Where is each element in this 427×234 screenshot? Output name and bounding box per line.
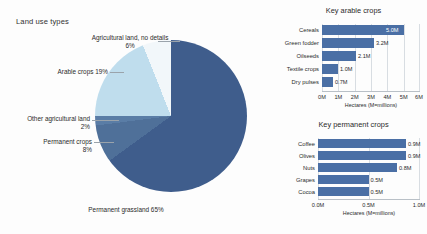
pie-chart-graphic — [95, 40, 247, 192]
pie-label-agricultural-no-details: Agricultural land, no details 6% — [72, 34, 188, 51]
land-use-pie-panel: Land use types Agricultural land, no det… — [0, 0, 280, 234]
bar[interactable] — [322, 64, 338, 74]
pie-label-pct: 2% — [81, 123, 90, 130]
permanent-value-label: 0.5M — [371, 189, 383, 195]
arable-plot-area: Cereals 5.0M Green fodder 3.2M Oilseeds … — [322, 24, 420, 92]
arable-x-axis-label: Hectares (M=millions) — [322, 102, 420, 108]
arable-value-label: 2.1M — [358, 53, 370, 59]
permanent-value-label: 0.9M — [408, 153, 420, 159]
pie-label-text: Arable crops 19% — [58, 68, 108, 75]
permanent-category-label: Olives — [299, 153, 315, 159]
bar[interactable] — [318, 175, 369, 184]
table-row: Cereals 5.0M — [322, 25, 420, 35]
arable-chart-title: Key arable crops — [280, 6, 427, 15]
permanent-x-axis-label: Hectares (M=millions) — [318, 210, 420, 216]
pie-label-arable-crops: Arable crops 19% — [22, 68, 108, 76]
permanent-x-ticks: 0.0M 0.5M 1.0M — [318, 200, 420, 209]
pie-label-text: Other agricultural land — [27, 115, 90, 122]
pie-label-permanent-grassland: Permanent grassland 65% — [66, 206, 186, 214]
x-tick: 6M — [415, 94, 423, 100]
key-permanent-crops-panel: Key permanent crops Coffee 0.9M Olives 0… — [280, 120, 427, 232]
pie-label-other-agricultural-land: Other agricultural land 2% — [8, 115, 90, 132]
pie-label-permanent-crops: Permanent crops 8% — [18, 138, 92, 155]
infographic-root: Land use types Agricultural land, no det… — [0, 0, 427, 234]
permanent-value-label: 0.9M — [408, 141, 420, 147]
bar[interactable] — [318, 151, 406, 160]
key-arable-crops-panel: Key arable crops Cereals 5.0M Green fodd… — [280, 6, 427, 114]
permanent-category-label: Coffee — [298, 141, 315, 147]
table-row: Green fodder 3.2M — [322, 38, 420, 48]
table-row: Nuts 0.8M — [318, 163, 420, 172]
bar[interactable] — [318, 139, 406, 148]
permanent-chart-title: Key permanent crops — [280, 120, 427, 129]
x-tick: 3M — [367, 94, 375, 100]
table-row: Coffee 0.9M — [318, 139, 420, 148]
table-row: Textile crops 1.0M — [322, 64, 420, 74]
x-tick: 2M — [351, 94, 359, 100]
arable-category-label: Dry pulses — [292, 79, 319, 85]
pie-chart-title: Land use types — [16, 17, 69, 26]
permanent-plot-area: Coffee 0.9M Olives 0.9M Nuts 0.8M Grapes… — [318, 138, 420, 200]
pie-label-text: Agricultural land, no details — [92, 34, 169, 41]
arable-x-ticks: 0M 1M 2M 3M 4M 5M 6M — [322, 92, 420, 101]
arable-value-label: 5.0M — [386, 27, 398, 33]
x-tick: 5M — [400, 94, 408, 100]
bar[interactable] — [322, 38, 374, 48]
x-tick: 0.5M — [362, 202, 374, 208]
x-tick: 1M — [334, 94, 342, 100]
arable-value-label: 3.2M — [376, 40, 388, 46]
pie-label-pct: 8% — [83, 146, 92, 153]
table-row: Grapes 0.5M — [318, 175, 420, 184]
arable-value-label: 1.0M — [340, 66, 352, 72]
leader-line-permanent-crops — [94, 142, 114, 143]
permanent-category-label: Cocoa — [298, 189, 315, 195]
bar[interactable] — [318, 187, 369, 196]
pie-label-text: Permanent grassland 65% — [88, 206, 163, 213]
permanent-value-label: 0.8M — [399, 165, 411, 171]
bar[interactable] — [322, 77, 333, 87]
arable-category-label: Textile crops — [287, 66, 319, 72]
table-row: Olives 0.9M — [318, 151, 420, 160]
table-row: Cocoa 0.5M — [318, 187, 420, 196]
x-tick: 1.0M — [413, 202, 425, 208]
x-tick: 0M — [318, 94, 326, 100]
x-tick: 0.0M — [312, 202, 324, 208]
arable-category-label: Green fodder — [285, 40, 319, 46]
pie-label-text: Permanent crops — [43, 138, 92, 145]
leader-line-other-ag — [92, 120, 119, 121]
pie-slices — [95, 40, 247, 192]
permanent-category-label: Grapes — [296, 177, 315, 183]
permanent-value-label: 0.5M — [371, 177, 383, 183]
table-row: Dry pulses 0.7M — [322, 77, 420, 87]
arable-category-label: Cereals — [299, 27, 319, 33]
leader-line-arable — [110, 72, 124, 73]
bar[interactable] — [318, 163, 397, 172]
bar[interactable] — [322, 51, 356, 61]
arable-category-label: Oilseeds — [296, 53, 319, 59]
x-tick: 4M — [383, 94, 391, 100]
arable-value-label: 0.7M — [335, 79, 347, 85]
table-row: Oilseeds 2.1M — [322, 51, 420, 61]
pie-label-pct: 6% — [125, 42, 134, 49]
permanent-category-label: Nuts — [303, 165, 315, 171]
